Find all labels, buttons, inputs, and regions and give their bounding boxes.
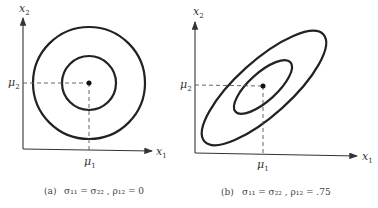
mu2-label-a: μ2 [8, 76, 20, 91]
caption-b: σ₁₁ = σ₂₂ , ρ₁₂ = .75 [242, 187, 331, 197]
caption-tag-b: (b) [221, 187, 234, 197]
axis-x-label-b: x1 [362, 150, 373, 165]
mu1-label-a: μ1 [84, 155, 96, 170]
panel-b: x2 x1 μ2 μ1 (b) σ₁₁ = σ₂₂ , ρ₁₂ = .75 [180, 5, 373, 197]
axis-x-label-a: x1 [156, 145, 167, 160]
mean-point-b [261, 84, 266, 89]
mean-point-a [87, 81, 92, 86]
panel-a: x2 x1 μ2 μ1 (a) σ₁₁ = σ₂₂ , ρ₁₂ = 0 [8, 2, 167, 196]
mu1-label-b: μ1 [257, 158, 269, 173]
mu2-label-b: μ2 [180, 78, 192, 93]
x-axis-a [23, 149, 152, 151]
axis-y-label-a: x2 [19, 2, 30, 17]
x-axis-b [195, 153, 357, 156]
contour-diagram: x2 x1 μ2 μ1 (a) σ₁₁ = σ₂₂ , ρ₁₂ = 0 x2 x… [0, 0, 378, 208]
axis-y-label-b: x2 [193, 5, 204, 20]
caption-tag-a: (a) [44, 186, 56, 196]
caption-a: σ₁₁ = σ₂₂ , ρ₁₂ = 0 [64, 186, 144, 196]
